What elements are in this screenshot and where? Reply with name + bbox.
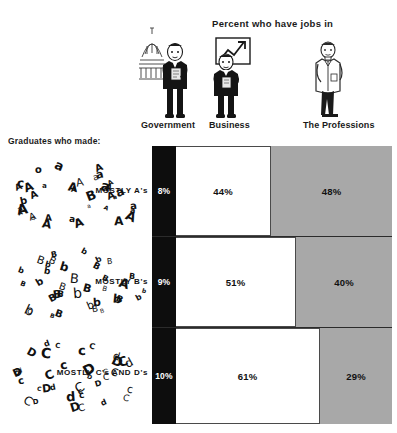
- column-label-professions: The Professions: [303, 120, 375, 130]
- table-row: 9% 51% 40%: [152, 237, 392, 327]
- page-title: Percent who have jobs in: [212, 18, 333, 29]
- cloud-letter: b: [72, 286, 82, 301]
- cloud-letter: c: [27, 307, 32, 316]
- cloud-letter: b: [95, 255, 104, 265]
- cloud-letter: A: [103, 205, 110, 212]
- cloud-letter: o: [35, 164, 43, 175]
- cloud-letter: A: [22, 179, 35, 194]
- cloud-letter: C: [88, 342, 96, 351]
- capitol-government-figure-icon: [139, 24, 203, 120]
- cloud-letter: b: [17, 266, 25, 276]
- cloud-letter: d: [66, 389, 76, 403]
- cloud-letter: B: [107, 258, 113, 267]
- row-label-mostly-bs: MOSTLY B's: [64, 277, 148, 286]
- cloud-letter: a: [129, 207, 135, 216]
- businessman-chart-figure-icon: [206, 36, 270, 120]
- table-row: 8% 44% 48%: [152, 146, 392, 236]
- bar-value-government: 10%: [152, 371, 176, 381]
- bar-value-business: 44%: [176, 186, 270, 197]
- cloud-letter: D: [94, 379, 103, 389]
- bar-segment-business[interactable]: 61%: [176, 328, 320, 424]
- cloud-letter: b: [134, 293, 143, 303]
- cloud-letter: b: [141, 288, 147, 295]
- column-label-government: Government: [141, 120, 195, 130]
- graduates-caption: Graduates who made:: [8, 136, 101, 146]
- cloud-letter: C: [21, 394, 34, 409]
- cloud-letter: b: [19, 195, 28, 206]
- cloud-letter: B: [50, 251, 58, 260]
- cloud-letter: A: [44, 213, 51, 222]
- bar-segment-business[interactable]: 44%: [176, 146, 271, 236]
- bar-segment-professions[interactable]: 40%: [296, 237, 392, 327]
- cloud-letter: d: [99, 398, 107, 408]
- cloud-letter: C: [55, 343, 61, 350]
- bar-segment-professions[interactable]: 29%: [320, 328, 392, 424]
- table-row: 10% 61% 29%: [152, 328, 392, 424]
- cloud-letter: c: [78, 343, 86, 356]
- bar-segment-professions[interactable]: 48%: [271, 146, 392, 236]
- cloud-letter: B: [49, 313, 55, 320]
- bar-segment-government[interactable]: 8%: [152, 146, 176, 236]
- bar-value-government: 9%: [152, 277, 176, 287]
- stacked-bar-chart: 8% 44% 48% 9% 51% 40% 10%: [152, 146, 392, 431]
- cloud-letter: C: [123, 394, 131, 404]
- bar-value-business: 51%: [176, 277, 295, 288]
- cloud-letter: b: [79, 248, 88, 258]
- cloud-letter: B: [19, 280, 27, 288]
- cloud-letter: b: [43, 267, 51, 277]
- row-label-mostly-as: MOSTLY A's: [64, 186, 148, 195]
- row-label-mostly-cs-ds: MOSTLY C's AND D's: [40, 368, 148, 377]
- column-label-business: Business: [209, 120, 250, 130]
- bar-value-business: 61%: [176, 371, 319, 382]
- cloud-letter: a: [68, 215, 75, 225]
- infographic-page: Percent who have jobs in: [0, 0, 397, 433]
- bar-value-government: 8%: [152, 186, 176, 196]
- cloud-letter: b: [34, 276, 45, 288]
- professional-labcoat-figure-icon: [300, 36, 364, 120]
- bar-segment-business[interactable]: 51%: [176, 237, 296, 327]
- cloud-letter: a: [53, 158, 66, 173]
- cloud-letter: A: [114, 215, 124, 227]
- cloud-letter: D: [25, 345, 38, 359]
- cloud-letter: a: [42, 183, 47, 190]
- bar-value-professions: 48%: [271, 186, 392, 197]
- bar-segment-government[interactable]: 9%: [152, 237, 176, 327]
- cloud-letter: B: [99, 308, 105, 315]
- cloud-letter: C: [36, 385, 41, 392]
- cloud-letter: D: [41, 382, 51, 394]
- cloud-letter: b: [58, 260, 70, 274]
- bar-segment-government[interactable]: 10%: [152, 328, 176, 424]
- bar-value-professions: 29%: [320, 371, 392, 382]
- cloud-letter: B: [101, 286, 108, 294]
- bar-value-professions: 40%: [296, 277, 392, 288]
